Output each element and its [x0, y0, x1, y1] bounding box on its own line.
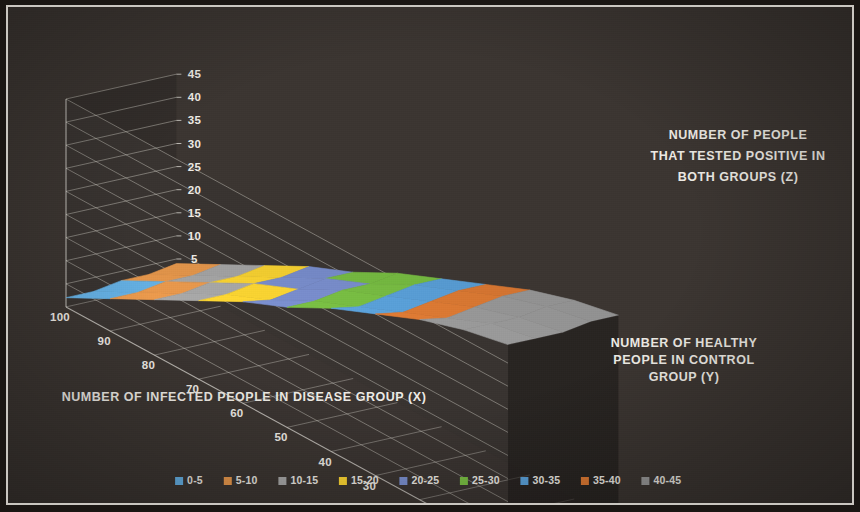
chart-card: 5101520253035404590705030101009080706050…	[6, 5, 854, 505]
legend-label: 20-25	[411, 474, 439, 486]
z-tick-label: 5	[191, 253, 198, 265]
x-tick-label: 80	[142, 359, 155, 371]
legend-label: 10-15	[290, 474, 318, 486]
x-tick-label: 90	[98, 335, 111, 347]
legend-swatch	[581, 477, 589, 485]
legend-swatch	[520, 477, 528, 485]
z-tick-label: 35	[188, 114, 202, 126]
legend-swatch	[175, 477, 183, 485]
legend-swatch	[399, 477, 407, 485]
y-axis-title-line: PEOPLE IN CONTROL	[613, 353, 754, 367]
y-axis-title-line: GROUP (Y)	[649, 370, 720, 384]
legend-item[interactable]: 40-45	[641, 474, 681, 486]
z-tick-label: 15	[188, 207, 202, 219]
legend-swatch	[278, 477, 286, 485]
z-axis-title-line: NUMBER OF PEOPLE	[669, 128, 808, 142]
z-tick-label: 25	[188, 161, 202, 173]
legend-swatch	[339, 477, 347, 485]
legend-swatch	[224, 477, 232, 485]
legend-label: 15-20	[351, 474, 379, 486]
z-axis-title-line: BOTH GROUPS (Z)	[678, 170, 799, 184]
legend-label: 40-45	[653, 474, 681, 486]
z-tick-label: 20	[188, 184, 201, 196]
legend: 0-55-1010-1515-2020-2525-3030-3535-4040-…	[175, 474, 681, 486]
x-axis-title: NUMBER OF INFECTED PEOPLE IN DISEASE GRO…	[62, 390, 427, 404]
legend-item[interactable]: 0-5	[175, 474, 203, 486]
legend-label: 30-35	[532, 474, 560, 486]
legend-item[interactable]: 10-15	[278, 474, 318, 486]
x-tick-label: 60	[230, 407, 243, 419]
x-tick-label: 100	[50, 311, 70, 323]
z-tick-label: 45	[188, 68, 202, 80]
legend-swatch	[460, 477, 468, 485]
y-axis-title-line: NUMBER OF HEALTHY	[611, 336, 758, 350]
z-tick-label: 10	[188, 230, 201, 242]
z-tick-label: 40	[188, 91, 201, 103]
legend-swatch	[641, 477, 649, 485]
z-tick-label: 30	[188, 138, 201, 150]
legend-label: 0-5	[187, 474, 203, 486]
legend-item[interactable]: 5-10	[224, 474, 258, 486]
x-tick-label: 40	[319, 456, 332, 468]
x-tick-label: 50	[274, 431, 287, 443]
z-axis: 51015202530354045	[176, 68, 201, 265]
legend-label: 25-30	[472, 474, 500, 486]
screenshot-root: 5101520253035404590705030101009080706050…	[0, 0, 860, 512]
surface-chart-3d: 5101520253035404590705030101009080706050…	[8, 7, 852, 503]
y-axis-title: NUMBER OF HEALTHYPEOPLE IN CONTROLGROUP …	[611, 336, 758, 384]
legend-label: 5-10	[236, 474, 258, 486]
legend-label: 35-40	[593, 474, 621, 486]
z-axis-title-line: THAT TESTED POSITIVE IN	[651, 149, 826, 163]
z-axis-title: NUMBER OF PEOPLETHAT TESTED POSITIVE INB…	[651, 128, 826, 184]
legend-item[interactable]: 15-20	[339, 474, 379, 486]
